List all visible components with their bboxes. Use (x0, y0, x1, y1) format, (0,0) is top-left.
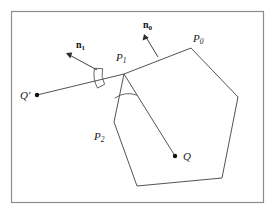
label-qprime-mark: ′ (28, 89, 30, 101)
label-p0-text: P (193, 32, 200, 44)
point-qprime-dot (35, 93, 39, 97)
label-n0-sub: 0 (149, 24, 153, 32)
label-p1-text: P (116, 51, 123, 63)
figure-container: P0 P1 P2 Q Q′ n0 n1 (0, 0, 276, 216)
label-p0: P0 (193, 33, 203, 46)
geometry-diagram (0, 0, 276, 216)
label-q: Q (183, 151, 191, 162)
label-n0: n0 (143, 20, 152, 32)
label-p2-text: P (94, 130, 101, 142)
figure-border (12, 12, 264, 203)
label-n1-sub: 1 (82, 44, 86, 52)
label-n1: n1 (76, 40, 85, 52)
label-qprime-text: Q (20, 89, 28, 101)
label-p1-sub: 1 (123, 56, 127, 65)
point-q-dot (173, 154, 177, 158)
label-p0-sub: 0 (200, 37, 204, 46)
label-p2-sub: 2 (101, 135, 105, 144)
label-qprime: Q′ (20, 90, 30, 101)
label-p1: P1 (116, 52, 126, 65)
label-q-text: Q (183, 150, 191, 162)
label-p2: P2 (94, 131, 104, 144)
